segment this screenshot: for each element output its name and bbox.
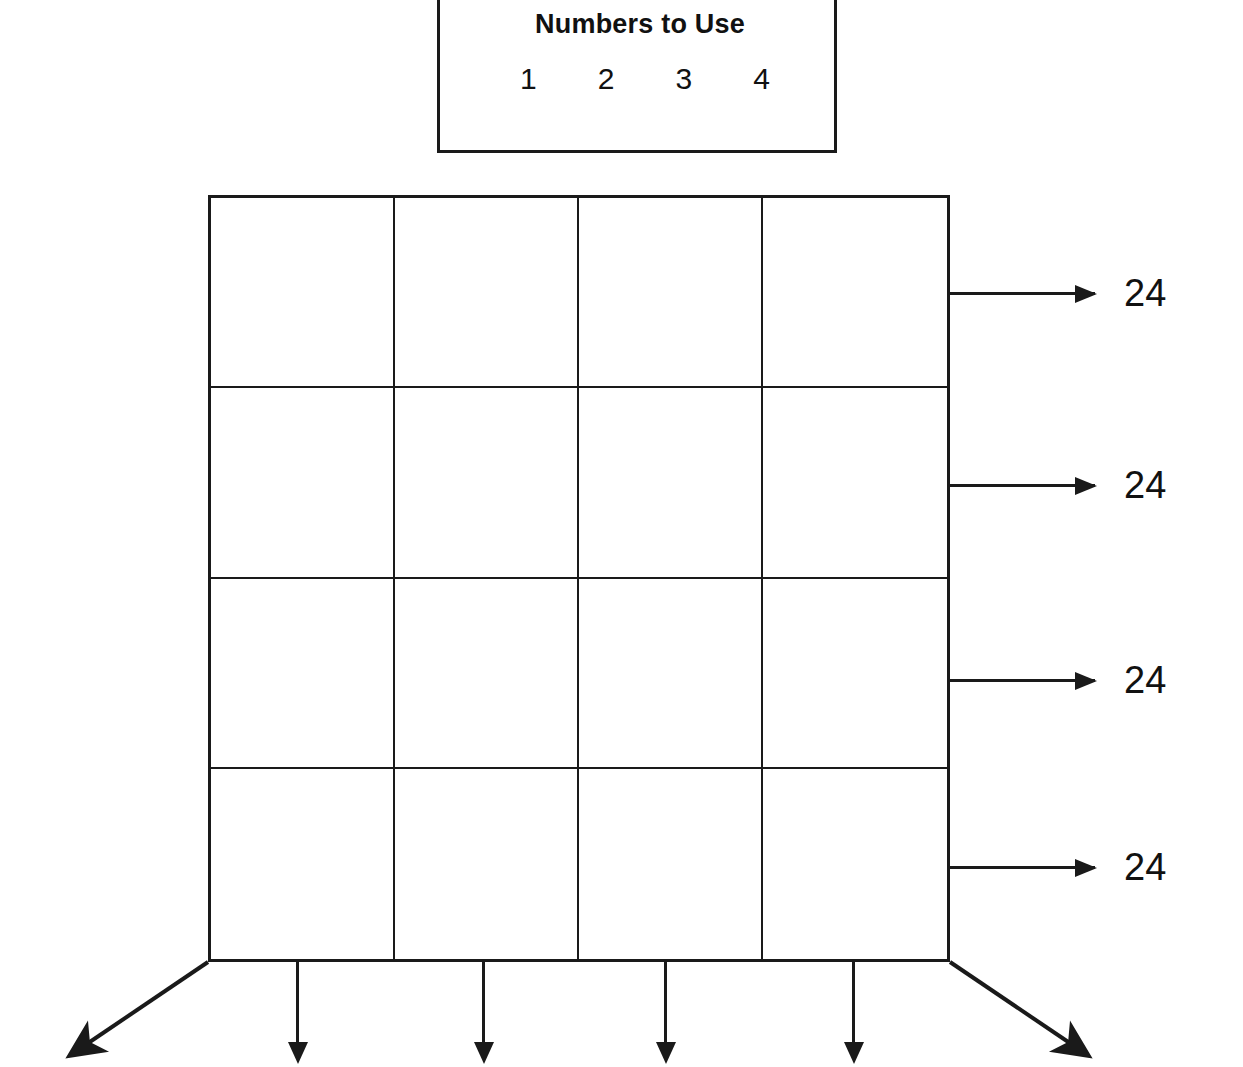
row-sum-arrow-icon-3	[950, 679, 1095, 682]
row-sum-label-4: 24	[1124, 848, 1214, 886]
grid-cell-r2c4[interactable]	[763, 388, 947, 578]
number-option-3: 3	[676, 64, 693, 94]
column-sum-arrow-icon-4	[852, 962, 855, 1050]
column-sum-arrow-icon-3	[664, 962, 667, 1050]
column-sum-arrow-icon-1	[296, 962, 299, 1050]
column-sum-arrow-icon-2	[482, 962, 485, 1050]
grid-cell-r1c4[interactable]	[763, 198, 947, 388]
diagonal-sum-arrow-icon-right	[950, 962, 1086, 1054]
grid-cell-r4c4[interactable]	[763, 769, 947, 959]
grid-cell-r3c2[interactable]	[395, 579, 579, 769]
grid-cell-r2c1[interactable]	[211, 388, 395, 578]
row-sum-label-1: 24	[1124, 274, 1214, 312]
grid-cell-r4c3[interactable]	[579, 769, 763, 959]
grid-cell-r1c2[interactable]	[395, 198, 579, 388]
grid-cell-r3c3[interactable]	[579, 579, 763, 769]
grid-cell-r3c1[interactable]	[211, 579, 395, 769]
numbers-to-use-box: Numbers to Use 1 2 3 4	[437, 0, 837, 153]
grid-cell-r3c4[interactable]	[763, 579, 947, 769]
puzzle-grid	[208, 195, 950, 962]
grid-cell-r2c2[interactable]	[395, 388, 579, 578]
numbers-to-use-list: 1 2 3 4	[500, 64, 790, 94]
number-option-2: 2	[598, 64, 615, 94]
row-sum-arrow-icon-2	[950, 484, 1095, 487]
numbers-to-use-title: Numbers to Use	[440, 9, 840, 40]
worksheet-page: Numbers to Use 1 2 3 4 24 24 24 24	[0, 0, 1243, 1067]
diagonal-sum-arrow-icon-left	[72, 962, 208, 1054]
grid-cell-r4c1[interactable]	[211, 769, 395, 959]
grid-cell-r2c3[interactable]	[579, 388, 763, 578]
grid-cell-r1c3[interactable]	[579, 198, 763, 388]
row-sum-arrow-icon-4	[950, 866, 1095, 869]
row-sum-arrow-icon-1	[950, 292, 1095, 295]
number-option-4: 4	[753, 64, 770, 94]
row-sum-label-2: 24	[1124, 466, 1214, 504]
row-sum-label-3: 24	[1124, 661, 1214, 699]
number-option-1: 1	[520, 64, 537, 94]
grid-cell-r1c1[interactable]	[211, 198, 395, 388]
grid-cell-r4c2[interactable]	[395, 769, 579, 959]
